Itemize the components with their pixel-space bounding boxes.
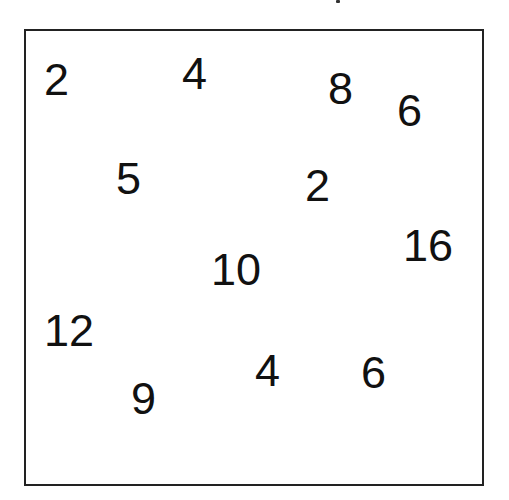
- number-label: 10: [211, 247, 261, 292]
- number-label: 9: [131, 376, 156, 421]
- number-label: 4: [255, 348, 280, 393]
- number-label: 2: [44, 57, 69, 102]
- number-label: 2: [305, 163, 330, 208]
- number-label: 12: [44, 308, 94, 353]
- number-label: 16: [403, 223, 453, 268]
- top-edge-mark: [336, 0, 340, 3]
- number-label: 8: [328, 66, 353, 111]
- number-label: 6: [397, 88, 422, 133]
- number-label: 5: [116, 156, 141, 201]
- number-label: 6: [361, 350, 386, 395]
- number-label: 4: [182, 51, 207, 96]
